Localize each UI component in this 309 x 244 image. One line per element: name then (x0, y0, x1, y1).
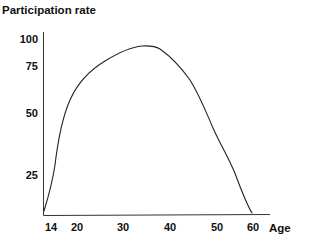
participation-curve (44, 46, 252, 213)
x-axis-line (44, 215, 271, 216)
chart-plot (0, 0, 309, 244)
